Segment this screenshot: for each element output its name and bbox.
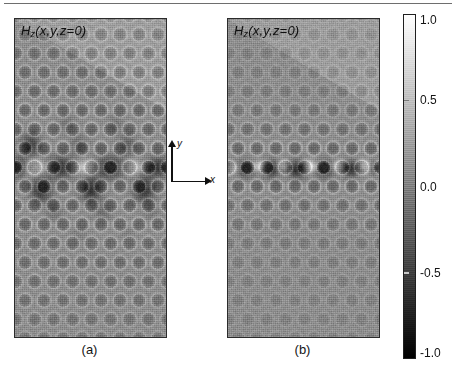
figure-root: Hz(x,y,z=0) (a) y x Hz(x,y,z=0) (b) 1.00… — [0, 0, 456, 374]
colorbar-tick-label: 0.0 — [420, 180, 437, 194]
field-map-a — [15, 19, 166, 337]
colorbar-tick — [404, 186, 409, 188]
colorbar-tick-label: -1.0 — [420, 346, 441, 360]
field-map-b — [228, 19, 379, 337]
axis-x-line — [171, 181, 207, 183]
colorbar-tick — [404, 272, 409, 274]
panel-b[interactable]: Hz(x,y,z=0) — [227, 18, 380, 338]
colorbar-tick-label: 1.0 — [420, 13, 437, 27]
colorbar-tick-label: 0.5 — [420, 93, 437, 107]
axis-label-y: y — [177, 138, 182, 149]
panel-b-field-label: Hz(x,y,z=0) — [234, 23, 299, 39]
colorbar[interactable]: 1.00.50.0-0.5-1.0 — [403, 14, 456, 359]
panel-a-field-label: Hz(x,y,z=0) — [21, 23, 86, 39]
axis-label-x: x — [210, 174, 215, 185]
caption-a: (a) — [14, 342, 165, 357]
page-rule — [4, 3, 452, 4]
colorbar-tick-label: -0.5 — [420, 266, 441, 280]
panel-a[interactable]: Hz(x,y,z=0) — [14, 18, 167, 338]
colorbar-tick — [404, 100, 409, 102]
caption-b: (b) — [227, 342, 378, 357]
axes-indicator: y x — [168, 140, 214, 186]
axis-y-line — [171, 146, 173, 182]
